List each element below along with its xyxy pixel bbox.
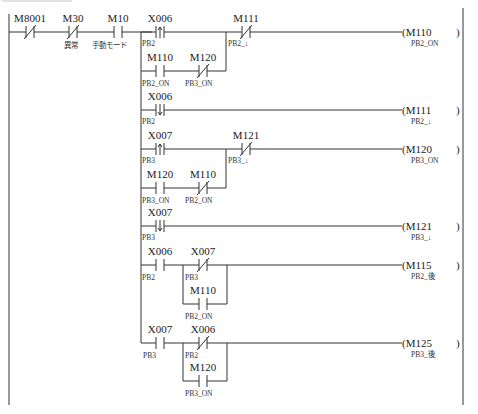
contact-m10: M10 手動モード <box>92 12 129 50</box>
svg-text:PB3: PB3 <box>185 273 198 282</box>
rung-m125: X007 PB3 X006 PB2 M120 PB3_ON (M125 ) PB… <box>141 323 460 398</box>
svg-text:): ) <box>456 143 460 156</box>
svg-text:PB2_後: PB2_後 <box>411 271 436 281</box>
svg-text:X006: X006 <box>191 323 216 335</box>
svg-text:PB3_後: PB3_後 <box>411 349 436 359</box>
svg-text:M110: M110 <box>190 168 216 180</box>
rung-m120: X007 PB3 M120 PB3_ON M110 PB2_ON M121 PB… <box>141 129 460 205</box>
svg-text:M121: M121 <box>233 129 259 141</box>
svg-text:PB2: PB2 <box>185 351 198 360</box>
rung-m115: X006 PB2 X007 PB3 M110 PB2_ON (M115 ) PB… <box>141 245 460 321</box>
svg-text:M110: M110 <box>147 51 173 63</box>
svg-text:異常: 異常 <box>64 41 78 50</box>
svg-text:PB3: PB3 <box>142 156 155 165</box>
svg-text:PB3_ON: PB3_ON <box>142 196 170 205</box>
svg-text:PB3_↓: PB3_↓ <box>411 233 431 242</box>
svg-text:X007: X007 <box>191 245 216 257</box>
svg-text:PB2_ON: PB2_ON <box>142 79 170 88</box>
svg-text:): ) <box>456 220 460 233</box>
svg-text:): ) <box>456 104 460 117</box>
svg-text:X007: X007 <box>148 323 173 335</box>
coil-m121: (M121 <box>402 220 432 233</box>
svg-text:M30: M30 <box>63 12 84 24</box>
rung-m121: X007 PB3 (M121 ) PB3_↓ <box>141 206 460 242</box>
svg-text:手動モード: 手動モード <box>92 40 127 50</box>
svg-text:): ) <box>456 337 460 350</box>
svg-text:X007: X007 <box>148 129 173 141</box>
svg-text:PB2_↓: PB2_↓ <box>228 39 248 48</box>
svg-text:M8001: M8001 <box>14 12 46 24</box>
svg-text:X007: X007 <box>148 206 173 218</box>
svg-text:PB2_↓: PB2_↓ <box>411 117 431 126</box>
svg-text:PB2: PB2 <box>142 39 155 48</box>
svg-text:PB2_ON: PB2_ON <box>411 39 439 48</box>
svg-text:M120: M120 <box>190 361 217 373</box>
svg-text:PB3: PB3 <box>143 351 156 360</box>
ladder-diagram: M8001 M30 異常 M10 手動モード X006 PB2 M110 PB2… <box>0 0 478 414</box>
svg-text:PB2: PB2 <box>142 117 155 126</box>
svg-text:PB2_ON: PB2_ON <box>185 196 213 205</box>
svg-text:PB3_ON: PB3_ON <box>185 79 213 88</box>
rung-m110: X006 PB2 M110 PB2_ON M120 PB3_ON M111 PB… <box>141 12 460 88</box>
svg-text:M110: M110 <box>190 284 216 296</box>
contact-m30: M30 異常 <box>63 12 84 50</box>
svg-text:PB2: PB2 <box>142 273 155 282</box>
coil-m115: (M115 <box>402 259 432 272</box>
coil-m111: (M111 <box>402 104 431 117</box>
svg-text:): ) <box>456 259 460 272</box>
coil-m125: (M125 <box>402 337 432 350</box>
svg-text:X006: X006 <box>148 245 173 257</box>
svg-text:PB3_ON: PB3_ON <box>411 156 439 165</box>
svg-text:): ) <box>456 26 460 39</box>
rung-m111: X006 PB2 (M111 ) PB2_↓ <box>141 90 460 126</box>
svg-text:X006: X006 <box>148 12 173 24</box>
svg-text:M120: M120 <box>147 168 174 180</box>
svg-text:PB3_ON: PB3_ON <box>185 389 213 398</box>
coil-m120: (M120 <box>402 143 432 156</box>
svg-text:PB3: PB3 <box>142 233 155 242</box>
contact-m8001: M8001 <box>14 12 46 39</box>
svg-text:X006: X006 <box>148 90 173 102</box>
coil-m110: (M110 <box>402 26 432 39</box>
svg-text:PB2_ON: PB2_ON <box>185 312 213 321</box>
svg-text:PB3_↓: PB3_↓ <box>228 156 248 165</box>
svg-text:M10: M10 <box>108 12 129 24</box>
svg-text:M111: M111 <box>233 12 258 24</box>
svg-text:M120: M120 <box>190 51 217 63</box>
